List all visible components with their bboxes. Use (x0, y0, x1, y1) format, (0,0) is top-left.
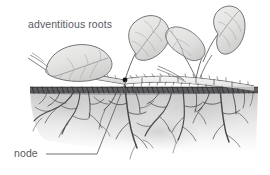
leaf-right-upper (203, 6, 245, 62)
label-node: node (14, 147, 38, 159)
leaf-left (28, 45, 112, 82)
leaf-right-lower (166, 27, 205, 78)
node-marker (123, 78, 128, 83)
illustration-canvas: adventitious roots node (0, 0, 270, 175)
soil-surface-line (30, 87, 258, 94)
leaf-center (125, 16, 169, 80)
label-adventitious-roots: adventitious roots (28, 18, 112, 30)
botanical-illustration-figure: adventitious roots node (0, 0, 270, 175)
